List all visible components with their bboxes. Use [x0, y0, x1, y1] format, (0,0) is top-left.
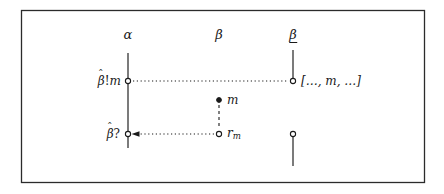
marker-send-event	[125, 78, 130, 83]
lifeline-head-beta-label: β	[215, 27, 223, 42]
event-label-message: m	[222, 94, 238, 106]
reply-subscript-label: m	[233, 131, 241, 141]
marker-receive-reply-event	[125, 131, 130, 136]
sequence-diagram-figure: α β β βˆ!m […, m, …] m rm βˆ?	[0, 0, 444, 194]
lifeline-head-alpha: α	[124, 28, 133, 41]
send-message-name: m	[110, 74, 121, 88]
circumflex-icon-receive: ˆ	[107, 122, 113, 133]
lifeline-head-beta: β	[215, 28, 223, 41]
event-label-receive-queue: […, m, …]	[296, 75, 361, 87]
receive-question: ?	[114, 127, 120, 141]
beta-hat-glyph-receive: βˆ	[107, 128, 114, 140]
circumflex-icon: ˆ	[98, 69, 104, 80]
lifeline-head-beta-underlined: β	[289, 28, 297, 43]
lifeline-head-beta-underlined-label: β	[289, 28, 297, 43]
arrowhead-left-icon	[132, 131, 140, 137]
lifeline-head-alpha-label: α	[124, 27, 133, 42]
event-label-send: βˆ!m	[98, 75, 125, 87]
marker-receive-queue-event	[290, 78, 295, 83]
event-label-reply: rm	[222, 127, 241, 141]
event-label-receive: βˆ?	[107, 128, 124, 140]
marker-reply-value	[216, 131, 221, 136]
marker-message-value	[217, 98, 222, 103]
marker-queue-event	[290, 131, 295, 136]
beta-hat-glyph: βˆ	[98, 75, 105, 87]
